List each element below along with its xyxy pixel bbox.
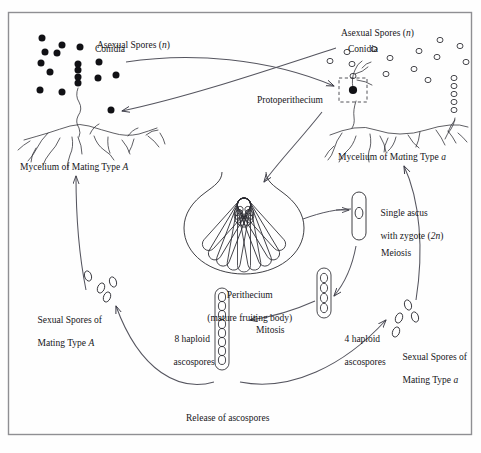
conidium-filled xyxy=(42,49,49,56)
label-mycelium-type-A: Mycelium of Mating Type A xyxy=(20,162,128,174)
conidium-open xyxy=(425,77,431,82)
conidium-filled xyxy=(59,42,66,49)
ascospore-oval xyxy=(410,311,420,323)
conidium-filled xyxy=(77,44,84,51)
italic-term: A xyxy=(123,162,129,172)
label-sexual-spores-type-a: Sexual Spores of Mating Type a xyxy=(393,340,467,398)
conidium-filled xyxy=(113,72,120,79)
label-mitosis: Mitosis xyxy=(256,325,285,337)
ascospore-oval xyxy=(403,299,413,311)
ascospore-oval xyxy=(394,312,404,324)
label-eight-haploid-ascospores: 8 haploid ascospores xyxy=(164,322,210,380)
label-conidia-left: Conidia xyxy=(95,44,125,56)
ascospore-oval xyxy=(391,326,401,338)
conidium-filled xyxy=(54,50,61,57)
label-single-ascus: Single ascus with zygote (2n) xyxy=(371,196,443,254)
conidium-open xyxy=(437,37,443,42)
ascus-group xyxy=(200,195,289,272)
italic-term: n xyxy=(406,28,411,38)
label-meiosis: Meiosis xyxy=(381,248,411,260)
figure-canvas: Asexual Spores (n) Conidia Asexual Spore… xyxy=(0,0,481,453)
arrow-protoperithecium-to-perithecium xyxy=(264,112,322,182)
mycelium-type-a xyxy=(325,61,468,162)
conidium-filled xyxy=(37,87,44,94)
conidium-open xyxy=(349,61,355,66)
sexual-spores-a-cluster xyxy=(391,299,420,338)
label-protoperithecium: Protoperithecium xyxy=(257,95,323,107)
conidium-filled xyxy=(95,75,102,82)
conidium-chain-bead xyxy=(451,107,457,112)
conidium-chain-bead xyxy=(451,99,457,104)
conidium-chain-bead xyxy=(451,91,457,96)
ascospore-oval xyxy=(96,282,106,294)
conidium-open xyxy=(387,55,393,60)
label-release-of-ascospores: Release of ascospores xyxy=(186,413,269,425)
italic-term: a xyxy=(398,152,403,162)
conidium-open xyxy=(434,54,440,59)
italic-term: a xyxy=(441,152,446,162)
mycelium-type-A xyxy=(18,88,165,168)
conidium-filled xyxy=(75,74,82,81)
conidium-filled xyxy=(59,89,66,96)
conidium-filled xyxy=(38,60,45,67)
label-mycelium-type-a: Mycelium of Mating Type a xyxy=(338,152,446,164)
italic-term: A xyxy=(88,338,94,348)
italic-term: a xyxy=(453,375,458,385)
conidium-open xyxy=(411,66,417,71)
conidium-filled xyxy=(75,80,82,87)
ascospore-oval xyxy=(102,291,112,303)
label-sexual-spores-type-A: Sexual Spores of Mating Type A xyxy=(28,303,102,361)
conidium-open xyxy=(327,58,333,63)
ascospore-oval xyxy=(108,276,118,288)
conidium-filled xyxy=(75,61,82,68)
conidium-filled xyxy=(108,107,115,114)
conidium-filled xyxy=(47,69,54,76)
arrow-meiosis xyxy=(334,246,356,296)
conidium-open xyxy=(383,71,389,76)
conidium-open xyxy=(463,59,469,64)
italic-term: n xyxy=(162,40,167,50)
label-asexual-spores-right: Asexual Spores (n) xyxy=(341,28,414,40)
label-four-haploid-ascospores: 4 haploid ascospores xyxy=(335,322,386,380)
conidium-open xyxy=(457,43,463,48)
label-conidia-right: Conidia xyxy=(348,44,378,56)
ascogonium-dot xyxy=(349,86,357,94)
ascus-four-ascospores xyxy=(317,268,331,318)
perithecium xyxy=(184,172,304,274)
sexual-spores-A-cluster xyxy=(83,270,118,303)
conidial-chain-right xyxy=(451,75,457,112)
conidium-chain-bead xyxy=(451,75,457,80)
conidium-filled xyxy=(39,35,46,42)
conidium-filled xyxy=(75,67,82,74)
single-ascus-with-zygote xyxy=(352,192,366,240)
italic-term: 2n xyxy=(431,231,441,241)
conidium-chain-bead xyxy=(451,83,457,88)
conidium-open xyxy=(416,48,422,53)
